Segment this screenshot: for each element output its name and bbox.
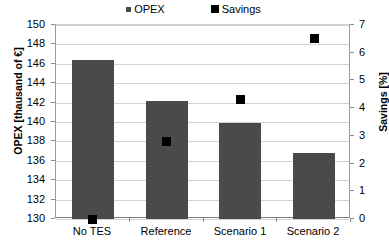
x-axis-tick — [350, 218, 351, 222]
y-axis-left-tick — [51, 82, 55, 83]
y-axis-right-tick — [350, 135, 354, 136]
y-axis-right-tick-label: 4 — [359, 102, 383, 113]
y-axis-left-tick — [51, 160, 55, 161]
y-axis-left-tick — [51, 179, 55, 180]
y-axis-left-tick — [51, 24, 55, 25]
marker-savings — [310, 34, 319, 43]
chart-legend: OPEX Savings — [0, 1, 387, 17]
y-axis-right-tick-label: 2 — [359, 158, 383, 169]
y-axis-left-tick-label: 136 — [0, 155, 45, 166]
marker-savings — [162, 137, 171, 146]
legend-item-opex: OPEX — [126, 3, 165, 15]
bar-opex — [146, 101, 188, 219]
y-axis-left-tick — [51, 140, 55, 141]
y-axis-left-tick-label: 140 — [0, 116, 45, 127]
x-axis-tick — [129, 218, 130, 222]
y-axis-right-tick-label: 6 — [359, 47, 383, 58]
y-axis-right-tick — [350, 190, 354, 191]
savings-swatch-icon — [211, 5, 219, 13]
x-axis-category-label: Scenario 2 — [276, 225, 350, 237]
bar-opex — [219, 123, 261, 219]
y-axis-right-tick — [350, 24, 354, 25]
y-axis-left-tick-label: 134 — [0, 174, 45, 185]
y-axis-left-tick — [51, 199, 55, 200]
y-axis-left-tick-label: 150 — [0, 19, 45, 30]
bar-opex — [293, 153, 335, 219]
y-axis-left-tick — [51, 218, 55, 219]
y-axis-right-tick — [350, 107, 354, 108]
y-axis-left-tick — [51, 63, 55, 64]
y-axis-right-tick-label: 5 — [359, 74, 383, 85]
marker-savings — [88, 215, 97, 224]
y-axis-left-tick-label: 144 — [0, 77, 45, 88]
legend-label-opex: OPEX — [134, 3, 165, 15]
y-axis-left-tick-label: 148 — [0, 38, 45, 49]
y-axis-right-tick — [350, 163, 354, 164]
y-axis-left-tick-label: 132 — [0, 194, 45, 205]
y-axis-left-tick — [51, 43, 55, 44]
y-axis-left-tick-label: 146 — [0, 58, 45, 69]
y-axis-left-tick — [51, 121, 55, 122]
opex-swatch-icon — [126, 7, 131, 12]
legend-label-savings: Savings — [222, 3, 261, 15]
x-axis-category-label: Scenario 1 — [203, 225, 277, 237]
marker-savings — [236, 95, 245, 104]
y-axis-right-tick — [350, 52, 354, 53]
legend-item-savings: Savings — [211, 3, 261, 15]
gridline — [56, 25, 349, 26]
gridline — [56, 44, 349, 45]
x-axis-category-label: Reference — [129, 225, 203, 237]
y-axis-left-tick-label: 130 — [0, 213, 45, 224]
y-axis-left-tick — [51, 102, 55, 103]
x-axis-tick — [276, 218, 277, 222]
x-axis-category-label: No TES — [55, 225, 129, 237]
bar-opex — [72, 60, 114, 219]
y-axis-right-tick-label: 3 — [359, 130, 383, 141]
plot-area — [55, 24, 350, 218]
y-axis-left-tick-label: 142 — [0, 97, 45, 108]
y-axis-right-tick — [350, 79, 354, 80]
y-axis-right-tick-label: 7 — [359, 19, 383, 30]
y-axis-right-tick-label: 1 — [359, 185, 383, 196]
y-axis-left-tick-label: 138 — [0, 135, 45, 146]
x-axis-tick — [203, 218, 204, 222]
y-axis-right-tick-label: 0 — [359, 213, 383, 224]
